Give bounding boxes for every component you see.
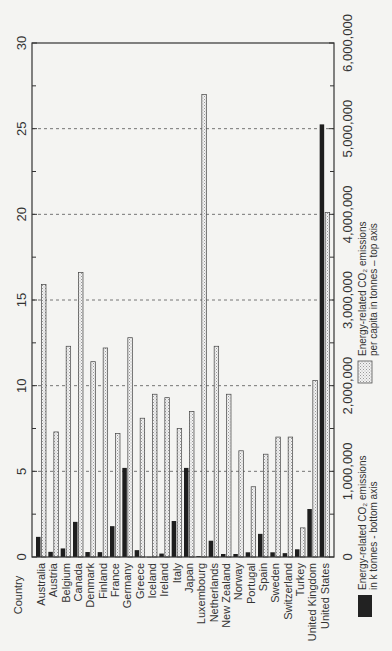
- bar-iceland-per-capita: [153, 394, 158, 557]
- bar-italy-per-capita: [177, 429, 182, 558]
- bar-netherlands-total: [209, 541, 214, 557]
- country-label: France: [109, 563, 121, 597]
- x-axis-title: Country: [12, 575, 24, 614]
- country-label: Portugal: [245, 563, 257, 604]
- bottom-axis-tick-label: 2,000,000: [340, 357, 355, 415]
- co2-emissions-chart: 05101520253001,000,0002,000,0003,000,000…: [0, 0, 392, 651]
- bar-denmark-per-capita: [91, 362, 96, 557]
- top-axis-tick-label: 0: [14, 553, 29, 560]
- country-label: Sweden: [269, 563, 281, 603]
- top-axis-tick-label: 15: [14, 293, 29, 307]
- bar-switzerland-per-capita: [288, 437, 293, 557]
- bar-germany-total: [122, 468, 127, 557]
- bar-united-kingdom-per-capita: [313, 381, 318, 557]
- bottom-axis-tick-label: 3,000,000: [340, 271, 355, 329]
- bar-finland-total: [98, 552, 103, 557]
- bar-norway-per-capita: [239, 451, 244, 557]
- legend-swatch-total: [358, 595, 372, 617]
- bar-portugal-total: [246, 552, 251, 557]
- legend-label: Energy-related CO₂ emissions: [357, 222, 368, 357]
- bar-turkey-per-capita: [301, 528, 306, 557]
- country-label: Luxembourg: [195, 563, 207, 624]
- bottom-axis-tick-label: 0: [340, 553, 355, 560]
- bar-canada-per-capita: [79, 273, 84, 557]
- country-label: Germany: [121, 563, 133, 609]
- bar-japan-total: [184, 468, 189, 557]
- bar-new-zealand-per-capita: [227, 394, 232, 557]
- bar-australia-per-capita: [42, 285, 47, 557]
- top-axis-tick-label: 5: [14, 468, 29, 475]
- country-label: Spain: [257, 563, 269, 591]
- legend-swatch-per-capita: [358, 361, 372, 383]
- country-label: Turkey: [294, 563, 306, 597]
- top-axis-tick-label: 10: [14, 378, 29, 392]
- chart-svg: 05101520253001,000,0002,000,0003,000,000…: [0, 0, 392, 651]
- bar-united-states-total: [320, 124, 325, 557]
- country-label: Greece: [134, 563, 146, 599]
- bottom-axis-tick-label: 1,000,000: [340, 442, 355, 500]
- top-axis-tick-label: 20: [14, 207, 29, 221]
- bar-finland-per-capita: [103, 348, 108, 557]
- country-label: Belgium: [60, 563, 72, 603]
- bar-japan-per-capita: [190, 411, 195, 557]
- country-label: Japan: [183, 563, 195, 593]
- country-label: Ireland: [158, 563, 170, 597]
- bar-portugal-per-capita: [251, 487, 256, 557]
- country-label: Canada: [72, 562, 84, 601]
- bar-belgium-per-capita: [66, 346, 71, 557]
- bottom-axis-tick-label: 4,000,000: [340, 185, 355, 243]
- bar-italy-total: [172, 521, 177, 557]
- top-axis-tick-label: 30: [14, 36, 29, 50]
- bar-austria-per-capita: [54, 432, 59, 557]
- legend-label: in k tonnes - bottom axis: [368, 482, 379, 590]
- bar-germany-per-capita: [128, 338, 133, 557]
- bar-spain-total: [258, 534, 263, 557]
- bar-greece-total: [135, 550, 140, 557]
- bar-canada-total: [73, 522, 78, 557]
- bar-france-per-capita: [116, 434, 121, 557]
- country-label: Austria: [47, 562, 59, 597]
- country-label: Switzerland: [282, 563, 294, 620]
- bar-denmark-total: [85, 552, 90, 557]
- bottom-axis-tick-label: 6,000,000: [340, 14, 355, 72]
- country-label: Iceland: [146, 563, 158, 598]
- legend-label: Energy-related CO₂ emissions: [357, 456, 368, 591]
- bar-ireland-per-capita: [165, 398, 170, 557]
- bottom-axis-tick-label: 5,000,000: [340, 100, 355, 158]
- country-label: Norway: [232, 563, 244, 601]
- bar-united-states-per-capita: [325, 213, 330, 557]
- bar-netherlands-per-capita: [214, 346, 219, 557]
- bar-turkey-total: [295, 549, 300, 557]
- bar-belgium-total: [61, 548, 66, 557]
- country-label: Italy: [171, 563, 183, 584]
- bar-sweden-per-capita: [276, 437, 281, 557]
- country-label: Finland: [97, 563, 109, 599]
- legend-label: per capita in tonnes – top axis: [368, 223, 379, 356]
- country-label: Australia: [35, 562, 47, 606]
- bar-luxembourg-per-capita: [202, 94, 207, 557]
- country-label: Netherlands: [208, 563, 220, 623]
- bar-sweden-total: [270, 552, 275, 557]
- country-label: United Kingdom: [306, 563, 318, 641]
- bar-australia-total: [36, 537, 41, 557]
- country-label: United States: [319, 563, 331, 630]
- top-axis-tick-label: 25: [14, 121, 29, 135]
- bar-united-kingdom-total: [307, 509, 312, 557]
- country-label: New Zealand: [220, 563, 232, 628]
- bar-spain-per-capita: [264, 454, 269, 557]
- bar-greece-per-capita: [140, 418, 145, 557]
- bar-france-total: [110, 526, 115, 557]
- bar-austria-total: [48, 552, 53, 557]
- country-label: Denmark: [84, 563, 96, 608]
